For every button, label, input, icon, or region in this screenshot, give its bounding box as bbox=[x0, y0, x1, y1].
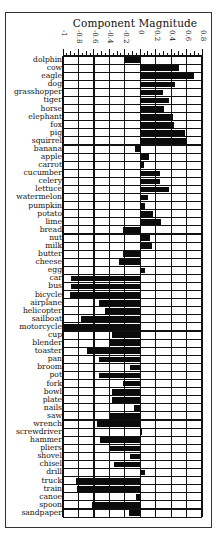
bar-lettuce bbox=[140, 187, 169, 193]
bar-tiger bbox=[140, 98, 169, 104]
gridline-horizontal bbox=[63, 120, 202, 121]
x-tick-label: 0.6 bbox=[184, 30, 191, 41]
bar-pan bbox=[99, 357, 141, 363]
bar-watermelon bbox=[140, 195, 148, 201]
bar-saw bbox=[110, 413, 140, 419]
bar-bread bbox=[123, 227, 140, 233]
bar-shovel bbox=[130, 454, 140, 460]
gridline-horizontal bbox=[63, 96, 202, 97]
x-tick-label: -1 bbox=[60, 30, 67, 37]
gridline-horizontal bbox=[63, 233, 202, 234]
bar-elephant bbox=[140, 114, 172, 120]
chart-title: Component Magnitude bbox=[60, 17, 210, 29]
bar-spoon bbox=[92, 502, 141, 508]
bar-pliers bbox=[110, 446, 140, 452]
x-tick-label: -0.8 bbox=[75, 30, 82, 44]
gridline-horizontal bbox=[63, 266, 202, 267]
bar-chisel bbox=[114, 462, 140, 468]
gridline-horizontal bbox=[63, 80, 202, 81]
gridline-horizontal bbox=[63, 161, 202, 162]
gridline-vertical bbox=[186, 56, 187, 517]
gridline-horizontal bbox=[63, 88, 202, 89]
x-tick-label: 0.4 bbox=[168, 30, 175, 41]
bar-celery bbox=[140, 179, 159, 185]
bar-potato bbox=[140, 211, 153, 217]
x-tick-label: 0.2 bbox=[153, 30, 160, 41]
bar-cucumber bbox=[140, 171, 159, 177]
gridline-horizontal bbox=[63, 403, 202, 404]
bar-truck bbox=[76, 478, 140, 484]
gridline-horizontal bbox=[63, 64, 202, 65]
gridline-horizontal bbox=[63, 104, 202, 105]
gridline-horizontal bbox=[63, 217, 202, 218]
gridline-horizontal bbox=[63, 428, 202, 429]
x-tick-label: -0.6 bbox=[91, 30, 98, 44]
bar-pig bbox=[140, 130, 185, 136]
gridline-vertical bbox=[62, 56, 63, 517]
category-label: sandpaper bbox=[21, 509, 62, 517]
bar-butter bbox=[123, 251, 140, 257]
bar-grasshopper bbox=[140, 90, 162, 96]
bar-hammer bbox=[100, 437, 140, 443]
bar-car bbox=[71, 276, 141, 282]
gridline-horizontal bbox=[63, 153, 202, 154]
bar-fox bbox=[140, 122, 174, 128]
bar-banana bbox=[135, 146, 140, 152]
bar-blender bbox=[110, 340, 140, 346]
bar-apple bbox=[140, 154, 149, 160]
gridline-horizontal bbox=[63, 144, 202, 145]
gridline-horizontal bbox=[63, 468, 202, 469]
bar-airplane bbox=[99, 300, 141, 306]
x-tick-label: -0.2 bbox=[122, 30, 129, 44]
bar-squirrel bbox=[140, 138, 187, 144]
gridline-horizontal bbox=[63, 112, 202, 113]
gridline-horizontal bbox=[63, 177, 202, 178]
bar-cheese bbox=[119, 259, 140, 265]
bar-toaster bbox=[87, 348, 140, 354]
bar-helicopter bbox=[105, 308, 140, 314]
x-tick-label: -0.4 bbox=[106, 30, 113, 44]
bar-horse bbox=[140, 106, 164, 112]
x-tick-label: 0.8 bbox=[199, 30, 206, 41]
bar-broom bbox=[130, 365, 140, 371]
gridline-vertical bbox=[201, 56, 202, 517]
bar-nut bbox=[140, 235, 150, 241]
bar-fork bbox=[123, 381, 140, 387]
x-tick-label: 0 bbox=[137, 30, 144, 34]
bar-pumpkin bbox=[140, 203, 145, 209]
bar-carrot bbox=[140, 162, 144, 168]
bar-dog bbox=[140, 82, 175, 88]
plot-area bbox=[63, 56, 202, 517]
bar-egg bbox=[140, 268, 145, 274]
bar-lime bbox=[140, 219, 161, 225]
bar-train bbox=[77, 486, 140, 492]
bar-bowl bbox=[112, 389, 141, 395]
gridline-horizontal bbox=[63, 242, 202, 243]
bar-wrench bbox=[97, 421, 140, 427]
gridline-horizontal bbox=[63, 209, 202, 210]
bar-milk bbox=[140, 243, 152, 249]
bar-screwdriver bbox=[140, 429, 142, 435]
bar-eagle bbox=[140, 73, 194, 79]
gridline-horizontal bbox=[63, 185, 202, 186]
bar-nails bbox=[134, 405, 140, 411]
bar-pot bbox=[99, 373, 140, 379]
bar-cup bbox=[112, 332, 141, 338]
bar-bus bbox=[71, 284, 141, 290]
gridline-horizontal bbox=[63, 201, 202, 202]
bar-canoe bbox=[136, 494, 141, 500]
gridline-horizontal bbox=[63, 169, 202, 170]
bar-dolphin bbox=[125, 57, 140, 63]
bar-bicycle bbox=[70, 292, 140, 298]
gridline-horizontal bbox=[63, 193, 202, 194]
bar-cow bbox=[140, 65, 179, 71]
gridline-horizontal bbox=[63, 517, 202, 518]
bar-plate bbox=[112, 397, 141, 403]
bar-sandpaper bbox=[129, 510, 140, 516]
bar-sailboat bbox=[81, 316, 140, 322]
bar-drill bbox=[140, 470, 145, 476]
gridline-horizontal bbox=[63, 492, 202, 493]
bar-motorcycle bbox=[64, 324, 140, 330]
